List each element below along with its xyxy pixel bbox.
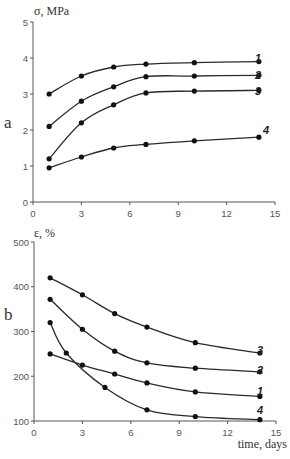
x-tick-label: 12 xyxy=(221,208,232,219)
data-point-marker xyxy=(193,389,198,394)
panel-label-b: b xyxy=(4,305,13,324)
x-ticks-a: 03691215 xyxy=(30,202,280,219)
x-tick-label: 3 xyxy=(80,427,85,438)
data-point-marker xyxy=(47,124,52,129)
data-point-marker xyxy=(144,407,149,412)
data-point-marker xyxy=(47,156,52,161)
x-tick-label: 9 xyxy=(177,427,182,438)
x-tick-label: 3 xyxy=(79,208,84,219)
data-point-marker xyxy=(48,297,53,302)
series-label-2b: 2 xyxy=(256,364,263,376)
data-point-marker xyxy=(111,145,116,150)
chart-a: σ, MPa a 012345 03691215 1 2 3 4 xyxy=(4,4,280,219)
chart-b: ε, % b 100200300400500 03691215 3 2 1 4 … xyxy=(4,226,287,451)
data-point-marker xyxy=(192,138,197,143)
series-label-1b: 1 xyxy=(257,385,263,397)
y-tick-label: 3 xyxy=(23,89,28,100)
y-axis-label-a: σ, MPa xyxy=(34,4,70,18)
data-point-marker xyxy=(48,351,53,356)
x-axis-label-b: time, days xyxy=(238,437,288,451)
series-2 xyxy=(48,297,263,375)
data-point-marker xyxy=(143,74,148,79)
series-1 xyxy=(48,351,263,399)
series-line xyxy=(50,299,260,371)
x-tick-label: 15 xyxy=(270,208,281,219)
y-tick-label: 100 xyxy=(13,416,29,427)
data-point-marker xyxy=(193,414,198,419)
data-point-marker xyxy=(79,73,84,78)
y-tick-label: 0 xyxy=(23,197,28,208)
data-point-marker xyxy=(80,292,85,297)
x-tick-label: 0 xyxy=(31,427,36,438)
series-4 xyxy=(47,135,262,171)
data-point-marker xyxy=(144,360,149,365)
series-label-2: 2 xyxy=(254,69,261,81)
data-point-marker xyxy=(79,120,84,125)
series-label-4: 4 xyxy=(262,124,269,136)
data-point-marker xyxy=(143,142,148,147)
x-tick-label: 0 xyxy=(30,208,35,219)
data-point-marker xyxy=(80,327,85,332)
data-point-marker xyxy=(193,340,198,345)
data-point-marker xyxy=(143,62,148,67)
y-ticks-a: 012345 xyxy=(23,17,33,208)
data-point-marker xyxy=(111,84,116,89)
data-point-marker xyxy=(193,366,198,371)
y-ticks-b: 100200300400500 xyxy=(13,237,34,427)
data-point-marker xyxy=(64,350,69,355)
data-point-marker xyxy=(192,73,197,78)
series-a xyxy=(47,59,262,170)
series-line xyxy=(50,323,260,420)
data-point-marker xyxy=(256,135,261,140)
y-tick-label: 500 xyxy=(13,237,29,248)
series-3 xyxy=(47,88,262,162)
data-point-marker xyxy=(111,64,116,69)
y-tick-label: 200 xyxy=(13,371,29,382)
data-point-marker xyxy=(111,102,116,107)
series-b xyxy=(48,275,263,422)
figure: σ, MPa a 012345 03691215 1 2 3 4 ε, % b … xyxy=(0,0,290,459)
x-ticks-b: 03691215 xyxy=(31,421,281,438)
series-4 xyxy=(48,320,263,422)
series-2 xyxy=(47,73,262,129)
data-point-marker xyxy=(79,99,84,104)
data-point-marker xyxy=(112,311,117,316)
series-label-3b: 3 xyxy=(257,344,263,356)
panel-label-a: a xyxy=(4,113,12,132)
x-tick-label: 6 xyxy=(127,208,132,219)
data-point-marker xyxy=(48,275,53,280)
series-label-3: 3 xyxy=(255,85,261,97)
y-axis-label-b: ε, % xyxy=(34,226,55,240)
x-tick-label: 9 xyxy=(176,208,181,219)
y-tick-label: 2 xyxy=(23,125,28,136)
data-point-marker xyxy=(192,60,197,65)
data-point-marker xyxy=(112,371,117,376)
series-3 xyxy=(48,275,263,355)
series-line xyxy=(50,278,260,353)
y-tick-label: 5 xyxy=(23,17,28,28)
series-label-1: 1 xyxy=(255,52,261,64)
y-tick-label: 4 xyxy=(23,53,28,64)
y-tick-label: 400 xyxy=(13,281,29,292)
data-point-marker xyxy=(144,380,149,385)
y-tick-label: 300 xyxy=(13,326,29,337)
data-point-marker xyxy=(80,362,85,367)
data-point-marker xyxy=(102,385,107,390)
x-tick-label: 6 xyxy=(128,427,133,438)
data-point-marker xyxy=(48,320,53,325)
x-tick-label: 12 xyxy=(222,427,233,438)
series-line xyxy=(49,137,259,168)
data-point-marker xyxy=(79,154,84,159)
data-point-marker xyxy=(47,91,52,96)
data-point-marker xyxy=(143,90,148,95)
series-label-4b: 4 xyxy=(256,404,263,416)
data-point-marker xyxy=(112,349,117,354)
data-point-marker xyxy=(47,165,52,170)
y-tick-label: 1 xyxy=(23,161,28,172)
data-point-marker xyxy=(144,324,149,329)
data-point-marker xyxy=(257,417,262,422)
data-point-marker xyxy=(192,89,197,94)
series-line xyxy=(50,354,260,397)
